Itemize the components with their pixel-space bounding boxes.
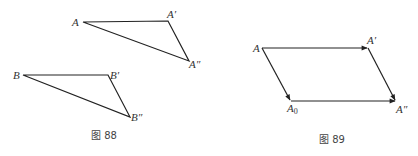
figure-89: A A′ A″ A0 图 89 (252, 34, 408, 145)
label-a-double-prime: A″ (395, 103, 408, 115)
label-a: A (252, 42, 260, 54)
label-a0: A0 (286, 102, 298, 116)
vector-a-to-a0 (262, 48, 290, 100)
triangle-a: A A′ A″ (71, 8, 201, 70)
label-b: B (13, 69, 20, 81)
label-a-prime: A′ (166, 8, 177, 20)
caption-figure-88: 图 88 (91, 130, 117, 141)
label-a: A (71, 16, 79, 28)
label-a-double-prime: A″ (188, 58, 201, 70)
label-b-prime: B′ (110, 69, 120, 81)
triangle-a-outline (83, 21, 189, 61)
figure-88: A A′ A″ B B′ B″ 图 88 (13, 8, 201, 141)
vector-a-prime-to-a-double-prime (368, 48, 395, 100)
label-b-double-prime: B″ (131, 111, 143, 123)
triangle-b-outline (23, 75, 130, 117)
diagram-canvas: A A′ A″ B B′ B″ 图 88 A A′ A″ A0 图 89 (0, 0, 418, 156)
caption-figure-89: 图 89 (319, 134, 345, 145)
triangle-b: B B′ B″ (13, 69, 143, 123)
label-a-prime: A′ (366, 34, 377, 46)
